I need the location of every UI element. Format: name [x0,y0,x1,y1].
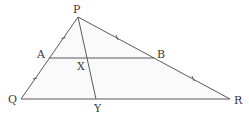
label-r: R [234,94,243,107]
label-y: Y [93,102,102,115]
label-p: P [73,3,81,16]
label-a: A [36,48,46,61]
label-b: B [157,48,165,61]
triangle-diagram: P Q R A B X Y [0,0,249,117]
diagram-canvas: P Q R A B X Y [0,0,249,117]
label-q: Q [8,93,17,106]
label-x: X [77,60,85,73]
